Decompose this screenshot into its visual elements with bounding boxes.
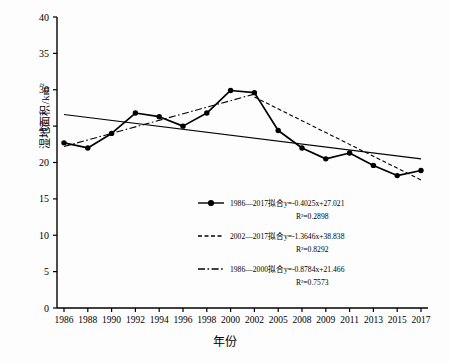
y-tick-label: 0 — [44, 303, 49, 314]
chart-plot-area: 0510152025303540 19861988199019921994199… — [0, 0, 450, 363]
y-tick-label: 5 — [44, 266, 49, 277]
x-tick-label: 2017 — [412, 315, 431, 325]
data-point-marker — [228, 88, 233, 93]
x-tick-label: 1992 — [126, 315, 145, 325]
trendline-fit-2002-2017 — [254, 97, 421, 180]
legend-r2-fit-1986-2017: R²=0.2898 — [296, 212, 329, 221]
data-point-marker — [180, 123, 185, 128]
data-point-marker — [157, 114, 162, 119]
x-tick-label: 2015 — [388, 315, 407, 325]
data-point-marker — [133, 110, 138, 115]
x-tick-label: 1994 — [150, 315, 169, 325]
data-point-marker — [418, 168, 423, 173]
x-tick-label: 2008 — [293, 315, 312, 325]
trendline-fit-1986-2000 — [64, 94, 254, 146]
data-point-marker — [85, 145, 90, 150]
chart-legend: 1986—2017拟合y=-0.4025x+27.021R²=0.2898200… — [198, 198, 345, 287]
x-tick-label: 2002 — [245, 315, 264, 325]
x-tick-label: 1986 — [55, 315, 74, 325]
y-axis-ticks: 0510152025303540 — [39, 12, 57, 314]
legend-swatch-marker — [208, 200, 214, 206]
x-axis-ticks: 1986198819901992199419961998200020022005… — [55, 308, 431, 325]
x-tick-label: 2013 — [364, 315, 383, 325]
data-point-marker — [395, 173, 400, 178]
y-tick-label: 10 — [39, 230, 49, 241]
x-tick-label: 1996 — [174, 315, 193, 325]
data-series-group — [61, 88, 423, 179]
data-point-marker — [61, 140, 66, 145]
x-axis-title: 年份 — [0, 332, 450, 350]
legend-r2-fit-1986-2000: R²=0.7573 — [296, 278, 329, 287]
data-point-marker — [109, 131, 114, 136]
x-axis-title-text: 年份 — [213, 335, 237, 349]
data-point-marker — [299, 145, 304, 150]
y-tick-label: 25 — [39, 121, 49, 132]
legend-label-fit-2002-2017: 2002—2017拟合y=-1.3646x+38.838 — [230, 231, 345, 241]
legend-label-fit-1986-2017: 1986—2017拟合y=-0.4025x+27.021 — [230, 198, 345, 208]
x-tick-label: 2000 — [221, 315, 240, 325]
x-tick-label: 1988 — [78, 315, 97, 325]
data-point-marker — [323, 156, 328, 161]
legend-r2-fit-2002-2017: R²=0.8292 — [296, 245, 329, 254]
y-tick-label: 40 — [39, 12, 49, 23]
y-tick-label: 15 — [39, 193, 49, 204]
legend-label-fit-1986-2000: 1986—2000拟合y=-0.8784x+21.466 — [230, 264, 345, 274]
y-tick-label: 30 — [39, 84, 49, 95]
data-point-marker — [252, 90, 257, 95]
data-point-marker — [371, 163, 376, 168]
x-tick-label: 2011 — [340, 315, 359, 325]
x-tick-label: 2009 — [316, 315, 335, 325]
trendlines-group — [64, 94, 421, 180]
wetland-area-chart-figure: 湿地面积/km2 0510152025303540 19861988199019… — [0, 0, 450, 363]
data-point-marker — [347, 150, 352, 155]
y-tick-label: 20 — [39, 157, 49, 168]
data-point-marker — [204, 110, 209, 115]
data-point-marker — [276, 128, 281, 133]
trendline-fit-1986-2017 — [64, 114, 421, 158]
x-tick-label: 1990 — [102, 315, 121, 325]
x-tick-label: 2005 — [269, 315, 288, 325]
series-line-湿地面积 — [64, 90, 421, 175]
x-tick-label: 1998 — [197, 315, 216, 325]
y-tick-label: 35 — [39, 48, 49, 59]
